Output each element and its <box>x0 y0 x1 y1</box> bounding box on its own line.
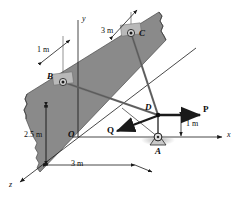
axis-label-z: z <box>9 181 12 189</box>
dim-label-3m-top: 3 m <box>101 27 113 35</box>
force-Q-arrow <box>117 116 157 131</box>
point-label-B: B <box>47 72 53 81</box>
point-label-O: O <box>68 130 75 139</box>
force-label-Q: Q <box>107 126 114 135</box>
ball-socket-support-A <box>141 133 175 145</box>
point-label-C: C <box>139 29 145 38</box>
dim-label-1m-top: 1 m <box>37 46 49 54</box>
dim-label-2.5m: 2.5 m <box>24 131 42 139</box>
dim-label-3m-bottom: 3 m <box>71 160 83 168</box>
figure-canvas <box>0 0 242 197</box>
force-label-P: P <box>203 105 209 114</box>
dim-3m-bottom <box>47 165 152 172</box>
statics-figure: y x z O A B C D P Q 1 m 3 m 2.5 m 3 m 1 … <box>0 0 242 197</box>
dim-label-1m-right: 1 m <box>186 120 198 128</box>
axis-label-x: x <box>227 131 231 139</box>
node-D <box>156 113 161 118</box>
point-label-D: D <box>145 103 152 112</box>
axis-label-y: y <box>82 15 86 23</box>
point-label-A: A <box>155 147 161 156</box>
